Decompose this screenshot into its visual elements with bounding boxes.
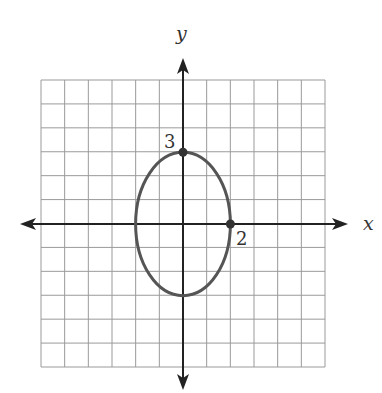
point-top bbox=[179, 148, 188, 157]
point-top-label: 3 bbox=[164, 131, 175, 152]
point-right bbox=[226, 220, 235, 229]
y-axis-label: y bbox=[175, 22, 187, 44]
coordinate-plane: 3 2 y x bbox=[0, 0, 382, 393]
x-axis-label: x bbox=[363, 212, 374, 234]
point-right-label: 2 bbox=[236, 228, 247, 249]
